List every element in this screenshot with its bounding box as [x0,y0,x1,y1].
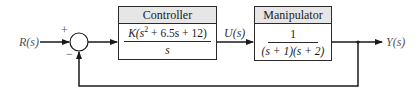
input-label: R(s) [19,35,39,50]
minus-sign: − [66,47,73,62]
controller-denominator: s [165,42,169,57]
manipulator-numerator: 1 [268,27,318,43]
numerator-pre: K(s [128,27,144,39]
numerator-post: + 6.5s + 12) [148,27,207,39]
manipulator-transfer-function: 1 (s + 1)(s + 2) [255,24,331,60]
manipulator-denominator: (s + 1)(s + 2) [262,43,325,58]
output-label: Y(s) [386,35,405,50]
denominator-text: s [165,44,169,56]
plus-sign: + [61,23,68,38]
manipulator-block: Manipulator 1 (s + 1)(s + 2) [254,6,332,61]
control-signal-label: U(s) [224,26,245,41]
controller-transfer-function: K(s2 + 6.5s + 12) s [119,24,216,59]
manipulator-title: Manipulator [255,7,331,24]
controller-title: Controller [119,7,216,24]
controller-numerator: K(s2 + 6.5s + 12) [124,26,211,42]
controller-block: Controller K(s2 + 6.5s + 12) s [118,6,217,60]
